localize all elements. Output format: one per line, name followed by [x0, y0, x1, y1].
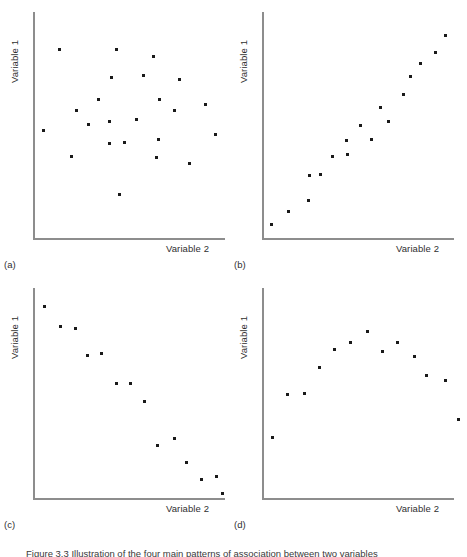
data-point [143, 400, 146, 403]
data-point [318, 366, 321, 369]
panel-c-plot-area [33, 288, 225, 500]
data-point [115, 48, 118, 51]
panel-d-y-axis-label: Variable 1 [238, 316, 249, 359]
panel-b-plot-area [262, 12, 454, 240]
data-point [434, 51, 437, 54]
data-point [173, 437, 176, 440]
panel-b-x-axis-label: Variable 2 [396, 243, 439, 254]
data-point [86, 354, 89, 357]
panel-d-x-axis [262, 498, 454, 500]
data-point [59, 325, 62, 328]
panel-d-y-axis [262, 288, 264, 500]
data-point [333, 348, 336, 351]
data-point [444, 34, 447, 37]
panel-d-letter: (d) [234, 519, 246, 530]
data-point [42, 129, 45, 132]
panel-c-y-axis [33, 288, 35, 500]
data-point [307, 199, 310, 202]
data-point [142, 74, 145, 77]
panel-a [33, 12, 225, 240]
data-point [173, 109, 176, 112]
panel-b-y-axis [262, 12, 264, 240]
data-point [200, 478, 203, 481]
panel-a-x-axis-label: Variable 2 [166, 243, 209, 254]
panel-c-letter: (c) [4, 519, 15, 530]
data-point [286, 393, 289, 396]
data-point [115, 382, 118, 385]
data-point [381, 350, 384, 353]
data-point [345, 139, 348, 142]
data-point [135, 118, 138, 121]
panel-c-x-axis-label: Variable 2 [166, 503, 209, 514]
panel-c-x-axis [33, 498, 225, 500]
panel-b-x-axis [262, 238, 454, 240]
data-point [308, 174, 311, 177]
data-point [379, 106, 382, 109]
data-point [419, 62, 422, 65]
panel-c [33, 288, 225, 500]
data-point [158, 98, 161, 101]
data-point [359, 124, 362, 127]
data-point [152, 55, 155, 58]
data-point [97, 98, 100, 101]
data-point [178, 78, 181, 81]
data-point [118, 193, 121, 196]
data-point [188, 162, 191, 165]
data-point [129, 382, 132, 385]
data-point [319, 173, 322, 176]
panel-a-x-axis [33, 238, 225, 240]
data-point [214, 133, 217, 136]
data-point [402, 93, 405, 96]
data-point [396, 341, 399, 344]
panel-a-y-axis [33, 12, 35, 240]
data-point [100, 352, 103, 355]
data-point [204, 103, 207, 106]
panel-c-y-axis-label: Variable 1 [9, 316, 20, 359]
figure-container: Variable 1 Variable 2 (a) Variable 1 Var… [0, 0, 467, 557]
data-point [157, 138, 160, 141]
data-point [108, 142, 111, 145]
data-point [87, 123, 90, 126]
data-point [287, 210, 290, 213]
figure-caption: Figure 3.3 Illustration of the four main… [26, 548, 456, 557]
data-point [123, 141, 126, 144]
data-point [444, 379, 447, 382]
data-point [331, 155, 334, 158]
data-point [58, 48, 61, 51]
data-point [370, 138, 373, 141]
data-point [346, 153, 349, 156]
data-point [110, 76, 113, 79]
data-point [215, 475, 218, 478]
data-point [70, 155, 73, 158]
data-point [75, 109, 78, 112]
panel-b-y-axis-label: Variable 1 [238, 40, 249, 83]
panel-a-y-axis-label: Variable 1 [9, 40, 20, 83]
data-point [108, 120, 111, 123]
panel-b-letter: (b) [234, 259, 246, 270]
data-point [409, 75, 412, 78]
data-point [43, 305, 46, 308]
panel-d [262, 288, 454, 500]
panel-d-x-axis-label: Variable 2 [396, 503, 439, 514]
data-point [185, 461, 188, 464]
data-point [270, 223, 273, 226]
panel-a-plot-area [33, 12, 225, 240]
data-point [155, 156, 158, 159]
data-point [387, 120, 390, 123]
data-point [271, 436, 274, 439]
data-point [413, 355, 416, 358]
data-point [74, 327, 77, 330]
data-point [366, 330, 369, 333]
data-point [349, 341, 352, 344]
data-point [303, 392, 306, 395]
data-point [221, 492, 224, 495]
data-point [457, 418, 460, 421]
data-point [156, 444, 159, 447]
panel-b [262, 12, 454, 240]
panel-a-letter: (a) [4, 259, 16, 270]
data-point [425, 374, 428, 377]
panel-d-plot-area [262, 288, 454, 500]
